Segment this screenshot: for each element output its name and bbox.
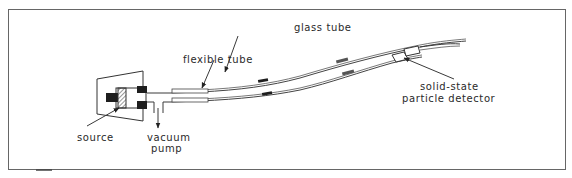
seal-bottom <box>137 101 147 109</box>
source-stub <box>106 93 118 102</box>
apparatus-diagram: glass tube flexible tube source vacuum p… <box>0 0 572 178</box>
label-pump: pump <box>151 143 182 154</box>
label-detector-line2: particle detector <box>402 93 496 104</box>
label-glass-tube: glass tube <box>294 22 352 33</box>
figure-frame <box>9 10 566 171</box>
flexible-tube-sleeve-top <box>172 89 208 93</box>
label-source: source <box>77 132 114 143</box>
flexible-tube-sleeve-bottom <box>172 98 208 102</box>
label-flexible-tube: flexible tube <box>183 54 253 65</box>
source-chamber <box>97 71 147 121</box>
source-hatched <box>118 88 126 108</box>
label-vacuum: vacuum <box>147 132 191 143</box>
label-detector-line1: solid-state <box>420 81 479 92</box>
seal-top <box>137 86 147 93</box>
